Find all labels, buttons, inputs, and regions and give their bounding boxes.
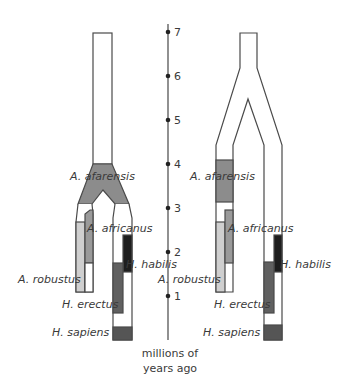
tick-3: 3 <box>174 202 181 215</box>
right-tree-labels: A. afarensis A. africanus A. robustus H.… <box>157 170 331 339</box>
left-tree <box>76 33 132 340</box>
right-tree <box>216 33 282 340</box>
left-label-sapiens: H. sapiens <box>52 326 110 339</box>
right-label-sapiens: H. sapiens <box>203 326 261 339</box>
right-label-africanus: A. africanus <box>227 222 294 235</box>
left-label-africanus: A. africanus <box>86 222 153 235</box>
tick-6: 6 <box>174 70 181 83</box>
left-label-erectus: H. erectus <box>62 298 119 311</box>
right-label-robustus: A. robustus <box>157 273 221 286</box>
left-label-robustus: A. robustus <box>17 273 81 286</box>
phylogeny-diagram: 7 6 5 4 3 2 1 millions of years ago A. a… <box>0 0 345 379</box>
left-label-habilis: H. habilis <box>126 258 177 271</box>
axis-label-line2: years ago <box>143 362 197 375</box>
right-label-habilis: H. habilis <box>280 258 331 271</box>
left-label-afarensis: A. afarensis <box>69 170 135 183</box>
tick-7: 7 <box>174 26 181 39</box>
tick-4: 4 <box>174 158 181 171</box>
axis-label-line1: millions of <box>142 347 200 360</box>
tick-5: 5 <box>174 114 181 127</box>
right-label-erectus: H. erectus <box>214 298 271 311</box>
tick-1: 1 <box>174 290 181 303</box>
right-label-afarensis: A. afarensis <box>189 170 255 183</box>
time-axis: 7 6 5 4 3 2 1 millions of years ago <box>142 24 200 375</box>
